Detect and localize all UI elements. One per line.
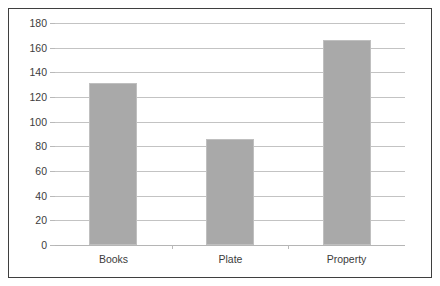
y-tick-label-180: 180 — [5, 18, 47, 28]
y-tick-mark-40 — [50, 196, 55, 197]
y-tick-label-20: 20 — [5, 215, 47, 225]
y-tick-label-0: 0 — [5, 240, 47, 250]
y-tick-label-160: 160 — [5, 43, 47, 53]
y-tick-mark-120 — [50, 97, 55, 98]
y-tick-label-60: 60 — [5, 166, 47, 176]
y-tick-mark-160 — [50, 48, 55, 49]
gridline-0 — [55, 245, 405, 246]
bar-property[interactable] — [323, 40, 371, 245]
plot-area — [55, 23, 405, 245]
y-tick-mark-100 — [50, 122, 55, 123]
y-tick-label-40: 40 — [5, 191, 47, 201]
y-tick-mark-20 — [50, 220, 55, 221]
y-tick-mark-60 — [50, 171, 55, 172]
bar-chart-figure: 020406080100120140160180 BooksPlatePrope… — [0, 0, 440, 286]
bar-books[interactable] — [89, 83, 137, 245]
y-tick-mark-0 — [50, 245, 55, 246]
y-tick-label-80: 80 — [5, 141, 47, 151]
y-tick-mark-180 — [50, 23, 55, 24]
y-axis-tick-labels: 020406080100120140160180 — [0, 0, 47, 286]
y-tick-label-100: 100 — [5, 117, 47, 127]
x-axis-label-plate: Plate — [172, 253, 289, 265]
x-tick-mark-2 — [288, 245, 289, 249]
x-axis-label-property: Property — [288, 253, 405, 265]
y-tick-label-140: 140 — [5, 67, 47, 77]
y-tick-mark-80 — [50, 146, 55, 147]
gridline-180 — [55, 23, 405, 24]
y-tick-label-120: 120 — [5, 92, 47, 102]
y-tick-mark-140 — [50, 72, 55, 73]
x-tick-mark-1 — [172, 245, 173, 249]
bar-plate[interactable] — [206, 139, 254, 245]
x-axis-label-books: Books — [55, 253, 172, 265]
